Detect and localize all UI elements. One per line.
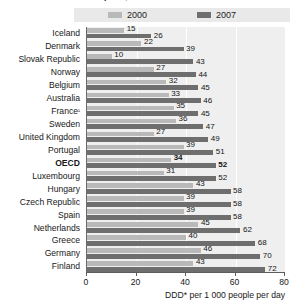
legend-item-2000: 2000 [108,11,147,20]
bar-2000-4 [87,80,166,85]
bar-group-11: 3152 [87,169,285,182]
bar-2000-16 [87,235,186,240]
category-axis: IcelandDenmarkSlovak RepublicNorwayBelgi… [0,27,83,273]
bar-2000-5 [87,93,169,98]
chart-legend: 2000 2007 [74,8,290,22]
x-tick-label-40: 40 [180,277,190,287]
bar-2000-10 [87,158,171,163]
value-label-2007-2: 43 [196,58,205,66]
legend-label-2000: 2000 [127,11,147,20]
value-label-2000-4: 32 [169,77,178,85]
x-tick-label-80: 80 [279,277,289,287]
plot-area: 1526223910432744324533463545364727493951… [86,27,285,273]
value-label-2000-8: 27 [156,128,165,136]
value-label-2000-12: 43 [196,180,205,188]
x-tickmark-80 [284,273,285,276]
bar-2000-2 [87,54,112,59]
legend-label-2007: 2007 [216,11,236,20]
value-label-2000-17: 46 [203,245,212,253]
footnote-marker: ¹ [78,108,80,114]
value-label-2000-15: 45 [201,219,210,227]
bar-group-0: 1526 [87,27,285,40]
category-label-germany: Germany [0,247,83,260]
category-label-norway: Norway [0,66,83,79]
value-label-2000-2: 10 [114,51,123,59]
category-label-sweden: Sweden [0,118,83,131]
bar-2007-4 [87,85,198,90]
category-label-australia: Australia [0,92,83,105]
bar-2000-0 [87,28,124,33]
category-label-france: France¹ [0,105,83,118]
bar-2000-13 [87,196,184,201]
x-tick-label-60: 60 [230,277,240,287]
bar-2000-6 [87,106,174,111]
x-tickmark-40 [185,273,186,276]
value-label-2007-15: 62 [243,226,252,234]
category-label-portugal: Portugal [0,143,83,156]
x-axis-title: DDD* per 1 000 people per day [0,290,285,300]
bar-2000-3 [87,67,154,72]
value-label-2000-11: 31 [166,167,175,175]
value-label-2007-14: 58 [233,213,242,221]
bar-group-7: 3647 [87,118,285,131]
legend-swatch-2000 [108,12,122,18]
bar-2000-7 [87,119,176,124]
bar-2007-7 [87,124,203,129]
bar-2007-0 [87,34,151,39]
x-tickmark-0 [86,273,87,276]
bar-2000-11 [87,171,164,176]
value-label-2007-17: 70 [263,252,272,260]
value-label-2000-16: 40 [189,232,198,240]
value-label-2007-11: 52 [218,174,227,182]
bar-2000-18 [87,261,193,266]
value-label-2000-7: 36 [179,115,188,123]
bar-2007-12 [87,189,231,194]
value-label-2007-12: 58 [233,187,242,195]
category-label-belgium: Belgium [0,79,83,92]
chart-title-cropped: Pharmaceutical consumption, 2000 and 200… [0,0,290,7]
value-label-2007-1: 39 [186,45,195,53]
category-label-hungary: Hungary [0,182,83,195]
bar-2007-2 [87,59,193,64]
value-label-2000-13: 39 [186,193,195,201]
bar-2000-15 [87,222,198,227]
value-label-2000-14: 39 [186,206,195,214]
bar-group-4: 3245 [87,79,285,92]
legend-item-2007: 2007 [197,11,236,20]
bar-2000-17 [87,248,201,253]
bar-2007-18 [87,267,265,272]
category-label-greece: Greece [0,234,83,247]
value-label-2000-1: 22 [144,38,153,46]
bar-2007-17 [87,254,260,259]
value-label-2000-9: 39 [186,141,195,149]
value-label-2000-6: 35 [176,102,185,110]
category-label-slovak-republic: Slovak Republic [0,53,83,66]
bar-2007-3 [87,72,196,77]
x-tickmark-20 [136,273,137,276]
value-label-2007-8: 49 [211,135,220,143]
category-label-spain: Spain [0,208,83,221]
value-label-2000-5: 33 [171,90,180,98]
bar-group-5: 3346 [87,92,285,105]
page-title: Pharmaceutical consumption, 2000 and 200… [4,0,189,1]
bar-group-16: 4068 [87,234,285,247]
value-label-2007-10: 52 [218,161,227,169]
category-label-czech-republic: Czech Republic [0,195,83,208]
bar-2007-10 [87,163,216,168]
x-tick-label-0: 0 [84,277,89,287]
bar-group-2: 1043 [87,53,285,66]
bar-group-14: 3958 [87,208,285,221]
value-label-2000-3: 27 [156,64,165,72]
value-label-2007-13: 58 [233,200,242,208]
legend-swatch-2007 [197,12,211,18]
bar-2007-15 [87,228,240,233]
bar-2000-9 [87,145,184,150]
bar-group-10: 3452 [87,156,285,169]
category-label-oecd: OECD [0,156,83,169]
bar-group-15: 4562 [87,221,285,234]
bar-group-17: 4670 [87,247,285,260]
category-label-luxembourg: Luxembourg [0,169,83,182]
category-label-finland: Finland [0,260,83,273]
value-label-2000-10: 34 [174,154,183,162]
value-label-2007-9: 51 [216,148,225,156]
